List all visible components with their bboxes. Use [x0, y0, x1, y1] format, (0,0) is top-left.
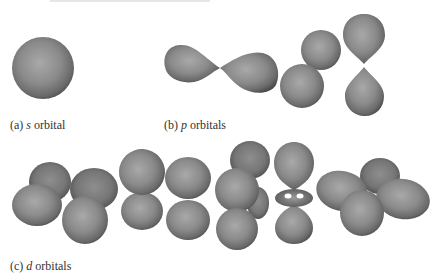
caption-c-text: orbitals [35, 259, 71, 273]
caption-a: (a) s orbital [10, 118, 65, 132]
p-orbital-vertical [343, 14, 385, 116]
caption-b-text: orbitals [190, 118, 226, 132]
d-orbital-5 [312, 158, 433, 236]
d-orbital-2 [113, 143, 211, 240]
caption-a-text: orbital [34, 118, 65, 132]
orbitals-figure [0, 0, 441, 276]
d-orbital-1 [12, 162, 118, 244]
caption-b: (b) p orbitals [164, 118, 226, 132]
caption-c: (c) d orbitals [10, 259, 71, 273]
d-orbital-3 [215, 141, 270, 250]
caption-a-symbol: s [26, 118, 31, 132]
caption-a-label: (a) [10, 118, 23, 132]
caption-c-symbol: d [26, 259, 32, 273]
d-orbital-z2 [274, 142, 314, 244]
p-orbital-horizontal [164, 45, 278, 93]
caption-b-symbol: p [181, 118, 187, 132]
caption-b-label: (b) [164, 118, 178, 132]
s-orbital-sphere [12, 37, 74, 99]
p-orbital-diagonal [280, 30, 341, 108]
caption-c-label: (c) [10, 259, 23, 273]
